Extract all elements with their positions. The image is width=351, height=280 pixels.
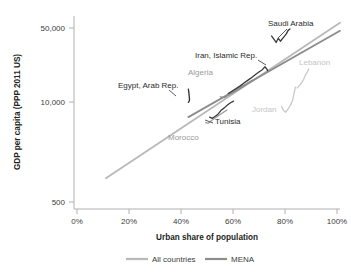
x-axis-title: Urban share of population <box>156 233 258 242</box>
trendlines-layer <box>106 23 340 179</box>
y-tick-label-10000: 10,000 <box>41 98 66 107</box>
saudi-arabia-leader <box>278 29 287 38</box>
legend-label-mena[interactable]: MENA <box>231 255 255 264</box>
x-tick-label-60: 60% <box>225 217 241 226</box>
chart-legend: All countries MENA <box>126 255 255 264</box>
y-axis-ticks <box>69 28 74 202</box>
x-tick-label-0: 0% <box>71 217 83 226</box>
annotation-egypt: Egypt, Arab Rep. <box>118 81 178 90</box>
axis-lines <box>74 16 340 209</box>
series-line-iran-islamic-rep- <box>228 67 267 94</box>
trendline-all-countries <box>106 23 340 179</box>
egypt-leader <box>169 90 176 96</box>
gdp-urbanization-chart: 50,000 10,000 500 0% 20% 40% 60% 80% 100… <box>0 0 351 280</box>
series-line-egypt-arab-rep- <box>188 89 189 102</box>
annotation-morocco: Morocco <box>168 133 199 142</box>
annotation-lebanon: Lebanon <box>299 58 330 67</box>
y-tick-label-500: 500 <box>52 198 66 207</box>
x-tick-label-20: 20% <box>121 217 137 226</box>
series-line-jordan <box>281 87 295 112</box>
y-tick-label-50000: 50,000 <box>41 24 66 33</box>
legend-label-all-countries[interactable]: All countries <box>152 255 196 264</box>
annotation-tunisia: Tunisia <box>215 117 241 126</box>
x-tick-label-100: 100% <box>327 217 347 226</box>
y-axis-title: GDP per capita (PPP 2011 US) <box>13 54 22 170</box>
x-axis-ticks <box>77 209 337 214</box>
annotation-algeria: Algeria <box>188 68 213 77</box>
annotation-saudi-arabia: Saudi Arabia <box>268 19 314 28</box>
chart-figure: 50,000 10,000 500 0% 20% 40% 60% 80% 100… <box>0 0 351 280</box>
iran-leader <box>258 60 266 65</box>
x-tick-label-80: 80% <box>277 217 293 226</box>
x-tick-label-40: 40% <box>173 217 189 226</box>
annotation-iran: Iran, Islamic Rep. <box>195 51 257 60</box>
series-line-lebanon <box>297 69 308 88</box>
annotation-jordan: Jordan <box>252 105 276 114</box>
